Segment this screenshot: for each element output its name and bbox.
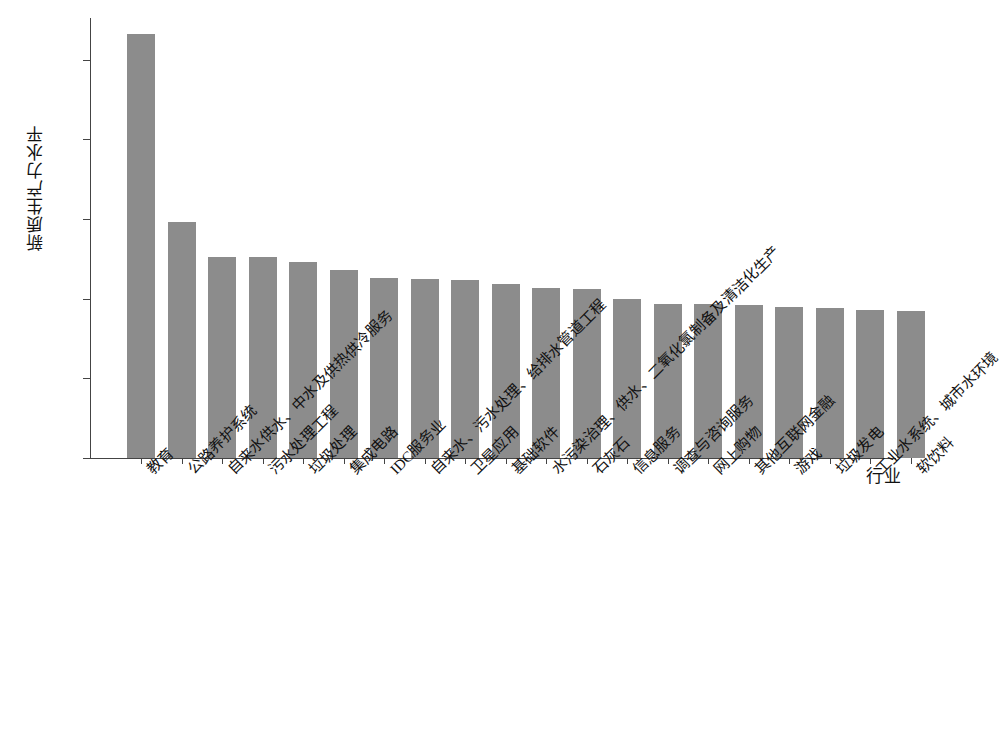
x-tick-mark xyxy=(344,458,345,464)
bar[interactable] xyxy=(127,34,155,458)
x-tick-mark xyxy=(222,458,223,464)
x-tick-mark xyxy=(708,458,709,464)
y-tick-mark xyxy=(83,378,90,379)
plot-area xyxy=(90,20,890,458)
bar[interactable] xyxy=(168,222,196,458)
x-tick-mark xyxy=(911,458,912,464)
x-tick-mark xyxy=(668,458,669,464)
y-tick-mark xyxy=(83,139,90,140)
x-tick-mark xyxy=(749,458,750,464)
x-tick-mark xyxy=(384,458,385,464)
x-tick-mark xyxy=(587,458,588,464)
y-axis-ticks: 0510152025 xyxy=(0,20,86,458)
y-tick-mark xyxy=(83,60,90,61)
x-tick-mark xyxy=(141,458,142,464)
x-tick-mark xyxy=(830,458,831,464)
x-tick-mark xyxy=(506,458,507,464)
x-tick-mark xyxy=(789,458,790,464)
x-tick-mark xyxy=(627,458,628,464)
x-tick-mark xyxy=(182,458,183,464)
x-tick-mark xyxy=(465,458,466,464)
y-tick-mark xyxy=(83,219,90,220)
x-tick-mark xyxy=(303,458,304,464)
x-tick-mark xyxy=(263,458,264,464)
y-tick-mark xyxy=(83,299,90,300)
bar-series xyxy=(90,20,890,458)
bar[interactable] xyxy=(816,308,844,459)
x-axis-title: 行业 xyxy=(866,462,902,487)
x-tick-mark xyxy=(425,458,426,464)
x-tick-mark xyxy=(546,458,547,464)
y-tick-mark xyxy=(83,458,90,459)
